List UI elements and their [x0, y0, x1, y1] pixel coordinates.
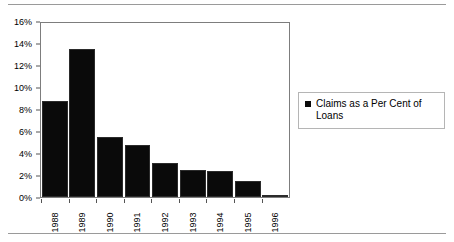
x-axis-slot: 1993 — [179, 199, 207, 242]
x-axis: 198819891990199119921993199419951996 — [41, 199, 289, 242]
x-axis-tick-mark — [124, 199, 125, 203]
x-axis-slot: 1995 — [234, 199, 262, 242]
bar-slot — [124, 23, 152, 197]
x-axis-tick-label: 1995 — [243, 212, 252, 232]
bar[interactable] — [97, 137, 123, 197]
x-axis-tick-label: 1994 — [216, 212, 225, 232]
x-axis-tick-label: 1992 — [161, 212, 170, 232]
top-divider-rule — [8, 4, 446, 5]
y-axis-tick-label: 16% — [14, 18, 32, 27]
x-axis-tick-mark — [206, 199, 207, 203]
bar[interactable] — [262, 195, 288, 197]
bar[interactable] — [235, 181, 261, 197]
y-axis-tick-label: 8% — [19, 106, 32, 115]
x-axis-tick-mark — [69, 199, 70, 203]
bar-chart: 0%2%4%6%8%10%12%14%16% 19881989199019911… — [0, 10, 454, 230]
x-axis-tick-mark — [234, 199, 235, 203]
x-axis-slot: 1992 — [151, 199, 179, 242]
x-axis-slot: 1990 — [96, 199, 124, 242]
x-axis-tick-label: 1993 — [188, 212, 197, 232]
bar-series — [41, 23, 289, 197]
x-axis-tick-label: 1990 — [105, 212, 114, 232]
legend-label: Claims as a Per Cent of Loans — [316, 98, 440, 122]
x-axis-slot: 1988 — [41, 199, 69, 242]
bar-slot — [262, 23, 290, 197]
y-axis-tick-label: 2% — [19, 172, 32, 181]
x-axis-tick-label: 1989 — [78, 212, 87, 232]
bar[interactable] — [207, 171, 233, 197]
bar-slot — [179, 23, 207, 197]
bar[interactable] — [152, 163, 178, 197]
x-axis-tick-mark — [262, 199, 263, 203]
bar-slot — [206, 23, 234, 197]
x-axis-slot: 1991 — [124, 199, 152, 242]
x-axis-slot: 1989 — [69, 199, 97, 242]
y-axis-tick-label: 0% — [19, 194, 32, 203]
legend-square-marker — [305, 101, 311, 107]
x-axis-tick-mark — [41, 199, 42, 203]
bar-slot — [41, 23, 69, 197]
bottom-divider-rule — [8, 233, 446, 234]
bar-slot — [234, 23, 262, 197]
y-axis: 0%2%4%6%8%10%12%14%16% — [0, 22, 36, 198]
y-axis-tick-label: 10% — [14, 84, 32, 93]
y-axis-tick-label: 14% — [14, 40, 32, 49]
bar-slot — [69, 23, 97, 197]
bar[interactable] — [42, 101, 68, 197]
x-axis-slot: 1996 — [262, 199, 290, 242]
y-axis-tick-label: 6% — [19, 128, 32, 137]
x-axis-tick-mark — [179, 199, 180, 203]
x-axis-tick-label: 1996 — [271, 212, 280, 232]
y-axis-tick-label: 12% — [14, 62, 32, 71]
y-axis-tick-label: 4% — [19, 150, 32, 159]
x-axis-tick-mark — [96, 199, 97, 203]
bar-slot — [151, 23, 179, 197]
chart-legend[interactable]: Claims as a Per Cent of Loans — [298, 92, 445, 129]
bar[interactable] — [125, 145, 151, 197]
x-axis-tick-label: 1991 — [133, 212, 142, 232]
bar[interactable] — [180, 170, 206, 197]
bar-slot — [96, 23, 124, 197]
x-axis-tick-mark — [151, 199, 152, 203]
x-axis-tick-label: 1988 — [50, 212, 59, 232]
bar[interactable] — [69, 49, 95, 197]
x-axis-slot: 1994 — [206, 199, 234, 242]
